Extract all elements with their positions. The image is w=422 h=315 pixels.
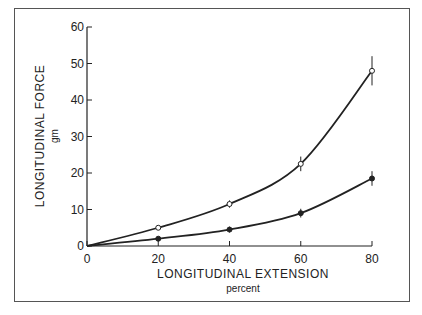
axes: 0204060800102030405060 [71, 20, 379, 266]
data-point [370, 68, 375, 73]
y-tick-label: 60 [71, 20, 85, 34]
x-axis-label: LONGITUDINAL EXTENSION [157, 267, 329, 281]
y-tick-label: 20 [71, 166, 85, 180]
y-tick-label: 40 [71, 93, 85, 107]
series-line [87, 71, 372, 246]
x-tick-label: 40 [223, 252, 237, 266]
y-tick-label: 0 [77, 239, 84, 253]
data-point [298, 211, 303, 216]
data-point [298, 161, 303, 166]
x-tick-label: 20 [152, 252, 166, 266]
y-tick-label: 10 [71, 203, 85, 217]
y-axis-label: LONGITUDINAL FORCE [33, 65, 47, 208]
data-point [156, 225, 161, 230]
data-point [227, 227, 232, 232]
y-axis-unit: gm [49, 129, 60, 143]
series [87, 56, 375, 246]
data-point [227, 202, 232, 207]
data-point [370, 176, 375, 181]
x-tick-label: 60 [294, 252, 308, 266]
x-tick-label: 80 [365, 252, 379, 266]
y-tick-label: 30 [71, 130, 85, 144]
data-point [156, 236, 161, 241]
x-axis-unit: percent [226, 283, 260, 294]
x-tick-label: 0 [84, 252, 91, 266]
y-tick-label: 50 [71, 57, 85, 71]
chart: 0204060800102030405060 LONGITUDINAL EXTE… [0, 0, 422, 315]
